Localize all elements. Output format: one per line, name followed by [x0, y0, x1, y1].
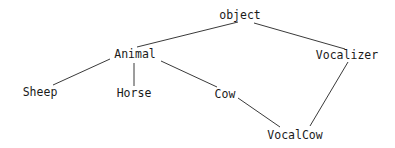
node-horse: Horse — [117, 86, 152, 100]
node-vocalizer: Vocalizer — [316, 48, 378, 62]
edge-object-vocalizer — [254, 23, 345, 49]
edge-cow-vocalcow — [238, 98, 280, 127]
edge-animal-cow — [161, 61, 217, 87]
node-cow: Cow — [215, 87, 236, 101]
node-animal: Animal — [114, 47, 156, 61]
edge-object-animal — [137, 22, 238, 47]
edges — [53, 22, 348, 127]
edge-animal-sheep — [53, 59, 110, 85]
edge-vocalizer-vocalcow — [310, 62, 348, 126]
node-vocalcow: VocalCow — [267, 128, 322, 142]
class-hierarchy-diagram: object Animal Vocalizer Sheep Horse Cow … — [0, 0, 395, 148]
node-sheep: Sheep — [23, 85, 58, 99]
node-object: object — [219, 8, 261, 22]
